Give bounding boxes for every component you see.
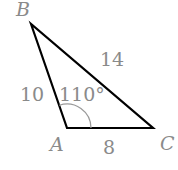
- angle-a-measure: 110°: [59, 83, 105, 105]
- vertex-label-a: A: [48, 133, 64, 155]
- side-ac-length: 8: [103, 136, 115, 158]
- triangle-abc: [31, 24, 153, 128]
- side-ab-length: 10: [20, 83, 44, 105]
- vertex-label-b: B: [15, 0, 30, 20]
- side-bc-length: 14: [100, 48, 124, 70]
- triangle-diagram: B A C 10 14 8 110°: [0, 0, 178, 170]
- vertex-label-c: C: [160, 132, 175, 154]
